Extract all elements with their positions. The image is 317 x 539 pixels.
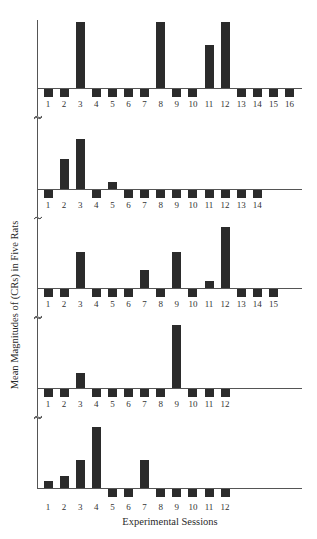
bar-session-1 — [44, 481, 53, 488]
x-axis-baseline — [37, 488, 302, 489]
x-tick-label: 9 — [175, 502, 180, 512]
bar-session-11 — [205, 489, 214, 497]
x-tick-label: 1 — [46, 502, 51, 512]
x-tick-label: 6 — [126, 502, 131, 512]
bar-session-5 — [108, 489, 117, 497]
x-tick-label: 12 — [221, 502, 230, 512]
bar-session-10 — [188, 489, 197, 497]
bar-session-4 — [92, 427, 101, 488]
x-tick-label: 7 — [142, 502, 147, 512]
bar-session-12 — [221, 489, 230, 497]
x-tick-label: 3 — [78, 502, 83, 512]
bar-session-6 — [124, 489, 133, 497]
bar-session-2 — [60, 476, 69, 488]
bar-session-8 — [156, 489, 165, 497]
x-tick-label: 8 — [158, 502, 163, 512]
x-tick-label: 2 — [62, 502, 67, 512]
bar-session-7 — [140, 460, 149, 488]
x-tick-label: 4 — [94, 502, 99, 512]
x-tick-label: 11 — [205, 502, 214, 512]
x-tick-label: 10 — [188, 502, 197, 512]
y-axis-line — [37, 418, 38, 488]
x-tick-label: 5 — [110, 502, 115, 512]
figure: Mean Magnitudes of (CRs) in Five Rats Ex… — [0, 0, 317, 539]
bar-session-9 — [172, 489, 181, 497]
axis-break-top-icon — [33, 415, 43, 421]
chart-panel-5: 123456789101112 — [0, 0, 317, 539]
bar-session-3 — [76, 460, 85, 488]
